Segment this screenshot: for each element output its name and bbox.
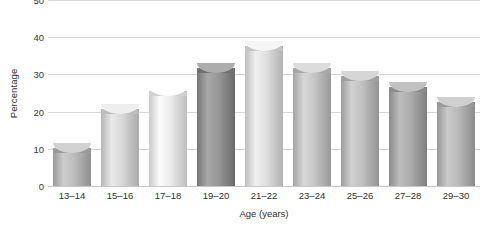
bar[interactable] xyxy=(149,86,187,186)
bar-body xyxy=(53,148,91,186)
bar[interactable] xyxy=(389,82,427,186)
bar-body xyxy=(389,87,427,186)
bars-layer xyxy=(48,0,480,186)
bar-chart: Percentage 01020304050 13–1415–1617–1819… xyxy=(0,0,497,236)
y-tick-label-40: 40 xyxy=(14,32,44,43)
bar[interactable] xyxy=(293,63,331,186)
bar[interactable] xyxy=(53,143,91,186)
bar-body xyxy=(197,68,235,186)
bar[interactable] xyxy=(197,63,235,186)
y-tick-label-0: 0 xyxy=(14,181,44,192)
x-axis-title: Age (years) xyxy=(48,208,480,219)
bar[interactable] xyxy=(341,71,379,186)
plot-area xyxy=(48,0,480,187)
bar-body xyxy=(149,91,187,186)
bar-body xyxy=(341,76,379,186)
x-tick-label: 29–30 xyxy=(428,190,484,201)
bar[interactable] xyxy=(437,97,475,186)
bar-body xyxy=(101,109,139,186)
y-tick-label-30: 30 xyxy=(14,69,44,80)
x-axis-ticks: 13–1415–1617–1819–2021–2223–2425–2627–28… xyxy=(48,190,480,206)
bar[interactable] xyxy=(101,104,139,186)
y-tick-label-50: 50 xyxy=(14,0,44,6)
y-tick-label-20: 20 xyxy=(14,106,44,117)
bar-body xyxy=(245,46,283,186)
y-tick-label-10: 10 xyxy=(14,143,44,154)
y-axis-ticks: 01020304050 xyxy=(0,0,48,187)
gridline-0 xyxy=(48,186,480,187)
bar-body xyxy=(437,102,475,186)
bar[interactable] xyxy=(245,41,283,186)
bar-body xyxy=(293,68,331,186)
